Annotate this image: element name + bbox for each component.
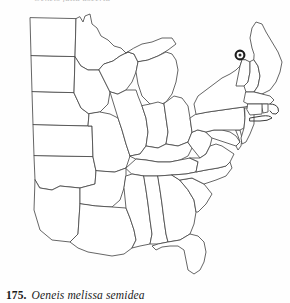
state-north-dakota (30, 18, 76, 57)
state-louisiana (70, 204, 136, 256)
caption-species-name: Oeneis melissa semidea (32, 289, 145, 301)
cut-off-caption-above: Oeneis jutta ascerta (34, 0, 224, 2)
figure-caption: 175.Oeneis melissa semidea (6, 285, 276, 300)
state-texas-edge (34, 180, 80, 242)
state-ohio (164, 96, 192, 146)
state-connecticut (247, 104, 262, 115)
figure-plate: Oeneis jutta ascerta (0, 0, 290, 303)
map-svg (0, 4, 290, 278)
state-kansas (33, 125, 93, 157)
record-dot-core (239, 54, 242, 57)
state-massachusetts (244, 92, 274, 104)
state-oklahoma (34, 156, 96, 190)
state-rhode-island (262, 104, 268, 113)
caption-number: 175. (6, 289, 27, 301)
record-marker-new-hampshire (236, 51, 245, 60)
cape-cod-outline (270, 104, 279, 114)
distribution-map (0, 4, 290, 278)
state-south-dakota (31, 56, 75, 93)
